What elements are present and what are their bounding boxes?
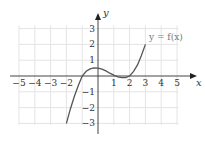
function-label: y = f(x) <box>148 32 183 42</box>
y-tick-label: −3 <box>82 118 96 128</box>
x-tick-label: 3 <box>143 78 149 88</box>
x-tick-label: 2 <box>127 78 133 88</box>
x-tick-label: −5 <box>12 78 26 88</box>
y-tick-label: 1 <box>89 55 95 65</box>
y-tick-label: 3 <box>89 24 95 34</box>
function-curve <box>66 44 145 123</box>
function-graph: −5−4−3−212345321−1−2−3 y = f(x) x y <box>0 0 205 141</box>
y-axis-label: y <box>102 7 109 18</box>
x-tick-label: 1 <box>111 78 117 88</box>
y-tick-label: −1 <box>82 87 95 97</box>
x-tick-label: 4 <box>158 78 164 88</box>
x-tick-label: −2 <box>60 78 73 88</box>
y-axis-arrow-icon <box>95 13 101 20</box>
x-tick-label: 5 <box>174 78 180 88</box>
x-tick-label: −3 <box>44 78 58 88</box>
x-axis-label: x <box>196 77 202 88</box>
y-tick-label: −2 <box>82 103 95 113</box>
x-tick-label: −4 <box>28 78 42 88</box>
y-tick-label: 2 <box>89 39 95 49</box>
